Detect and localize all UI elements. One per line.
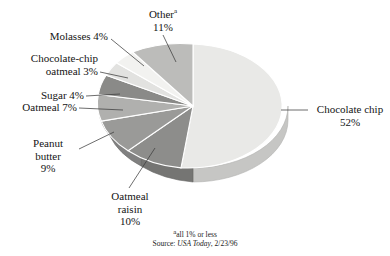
source-publication: USA Today [177, 239, 211, 248]
source-prefix: Source: [152, 239, 177, 248]
label-peanut-butter-line2: butter [20, 150, 76, 163]
pie-top-face [97, 43, 282, 168]
footnote-text: all 1% or less [176, 230, 217, 239]
label-other-percent: 11% [128, 21, 198, 34]
label-other-name-line: Othera [128, 8, 198, 21]
leader-line-peanut-butter [79, 132, 114, 149]
label-chocolate-chip-name: Chocolate chip [311, 103, 389, 116]
label-oatmeal-text: Oatmeal 7% [2, 101, 77, 114]
label-other-footnote-marker: a [174, 7, 177, 15]
label-oatmeal-raisin-percent: 10% [101, 215, 159, 228]
label-peanut-butter-line1: Peanut [20, 137, 76, 150]
label-chocolate-chip-oatmeal-line2: oatmeal 3% [6, 65, 98, 78]
label-peanut-butter-percent: 9% [20, 162, 76, 175]
label-oatmeal-raisin-line1: Oatmeal [101, 190, 159, 203]
label-chocolate-chip-oatmeal-line1: Chocolate-chip [6, 52, 98, 65]
label-oatmeal: Oatmeal 7% [2, 101, 77, 114]
label-sugar: Sugar 4% [14, 89, 84, 102]
source-date: , 2/23/96 [211, 239, 238, 248]
label-sugar-text: Sugar 4% [14, 89, 84, 102]
pie-chart-figure: Othera 11% Molasses 4% Chocolate-chip oa… [0, 0, 390, 256]
source-line: Source: USA Today, 2/23/96 [0, 239, 390, 248]
label-oatmeal-raisin-line2: raisin [101, 203, 159, 216]
label-chocolate-chip-percent: 52% [311, 116, 389, 129]
label-other: Othera 11% [128, 8, 198, 33]
label-molasses: Molasses 4% [20, 30, 108, 43]
label-chocolate-chip: Chocolate chip 52% [311, 103, 389, 128]
label-chocolate-chip-oatmeal: Chocolate-chip oatmeal 3% [6, 52, 98, 77]
label-molasses-text: Molasses 4% [20, 30, 108, 43]
footnote-block: aall 1% or less Source: USA Today, 2/23/… [0, 230, 390, 248]
footnote-line: aall 1% or less [0, 230, 390, 239]
label-other-name: Other [149, 8, 174, 20]
label-oatmeal-raisin: Oatmeal raisin 10% [101, 190, 159, 228]
label-peanut-butter: Peanut butter 9% [20, 137, 76, 175]
